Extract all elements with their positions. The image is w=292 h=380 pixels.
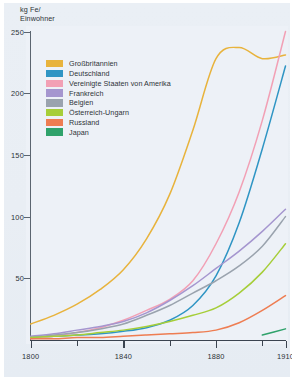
legend-item: Deutschland <box>46 69 171 78</box>
legend-swatch <box>46 99 63 106</box>
legend-label: Vereinigte Staaten von Amerika <box>69 79 171 88</box>
legend-item: Frankreich <box>46 88 171 97</box>
legend-label: Großbritannien <box>69 59 118 68</box>
series-line-japan <box>262 329 285 335</box>
legend-item: Japan <box>46 127 171 136</box>
series-line-russland <box>31 296 286 339</box>
legend-label: Österreich-Ungarn <box>69 108 129 117</box>
legend-item: Österreich-Ungarn <box>46 108 171 117</box>
legend-swatch <box>46 128 63 135</box>
legend-swatch <box>46 70 63 77</box>
legend-label: Japan <box>69 128 89 137</box>
chart-page: kg Fe/ Einwohner 25020015010050 18001840… <box>0 0 292 380</box>
plot-lines <box>0 0 292 380</box>
legend-item: Russland <box>46 118 171 127</box>
legend-swatch <box>46 80 63 87</box>
legend-label: Frankreich <box>69 89 103 98</box>
legend-label: Deutschland <box>69 69 110 78</box>
legend-item: Großbritannien <box>46 59 171 68</box>
legend-item: Belgien <box>46 98 171 107</box>
legend-label: Belgien <box>69 98 93 107</box>
legend-item: Vereinigte Staaten von Amerika <box>46 79 171 88</box>
legend-swatch <box>46 109 63 116</box>
legend-swatch <box>46 89 63 96</box>
legend: GroßbritannienDeutschlandVereinigte Staa… <box>46 59 171 137</box>
series-line--sterreich-ungarn <box>31 244 286 338</box>
series-line-frankreich <box>31 209 286 336</box>
legend-label: Russland <box>69 118 99 127</box>
legend-swatch <box>46 60 63 67</box>
legend-swatch <box>46 119 63 126</box>
